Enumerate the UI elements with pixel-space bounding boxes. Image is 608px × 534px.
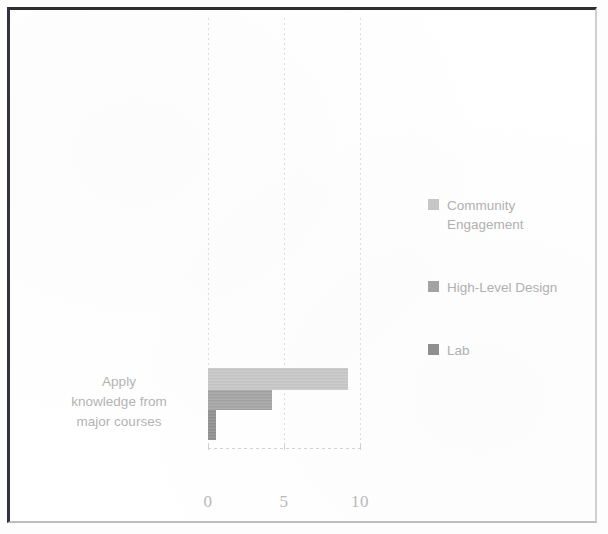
- category-label-line-3: major courses: [38, 412, 200, 432]
- gridline-10: [360, 18, 361, 448]
- tick-mark-0: [208, 443, 209, 450]
- x-tick-label-0: 0: [204, 492, 213, 512]
- legend-item-lab[interactable]: Lab: [428, 341, 578, 360]
- x-axis-line: [208, 448, 364, 449]
- category-label: Apply knowledge from major courses: [38, 372, 200, 432]
- legend-item-high-level-design[interactable]: High-Level Design: [428, 278, 578, 297]
- legend-label-lab: Lab: [447, 341, 470, 360]
- tick-mark-5: [284, 443, 285, 450]
- x-tick-label-5: 5: [280, 492, 289, 512]
- category-label-line-1: Apply: [38, 372, 200, 392]
- tick-mark-10: [360, 443, 361, 450]
- plot-area: 0 5 10: [208, 18, 360, 448]
- x-tick-label-10: 10: [351, 492, 369, 512]
- chart-page: 0 5 10 Apply knowledge from major course…: [0, 0, 608, 534]
- legend-item-community-engagement[interactable]: Community Engagement: [428, 196, 578, 234]
- legend-label-community-engagement: Community Engagement: [447, 196, 565, 234]
- bar-lab[interactable]: [208, 410, 216, 440]
- legend-swatch-icon-high-level-design: [428, 281, 439, 292]
- category-label-line-2: knowledge from: [38, 392, 200, 412]
- legend-label-high-level-design: High-Level Design: [447, 278, 557, 297]
- bar-community-engagement[interactable]: [208, 368, 348, 390]
- bar-high-level-design[interactable]: [208, 390, 272, 410]
- legend-swatch-icon-community-engagement: [428, 199, 439, 210]
- chart-legend: Community Engagement High-Level Design L…: [428, 196, 578, 404]
- legend-swatch-icon-lab: [428, 344, 439, 355]
